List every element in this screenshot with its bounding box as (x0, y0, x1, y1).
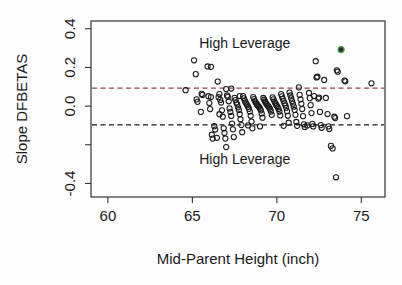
data-point (227, 106, 232, 111)
data-point (293, 112, 298, 117)
y-tick-label: 0.4 (62, 18, 79, 39)
data-point (208, 106, 213, 111)
y-tick-label: 0.2 (62, 57, 79, 78)
data-point (300, 106, 305, 111)
data-point (322, 77, 327, 82)
data-point (257, 124, 262, 129)
x-axis-tick-labels: 60657075 (100, 207, 370, 224)
x-axis-ticks (108, 197, 361, 203)
data-point (217, 92, 222, 97)
x-tick-label: 75 (353, 207, 370, 224)
x-axis-title: Mid-Parent Height (inch) (157, 250, 320, 267)
data-point (193, 72, 198, 77)
data-point (215, 79, 220, 84)
data-point (269, 112, 274, 117)
data-point (306, 90, 311, 95)
y-axis-title: Slope DFBETAS (13, 54, 30, 165)
data-point (323, 95, 328, 100)
data-point (208, 64, 213, 69)
data-point (224, 86, 229, 91)
data-point (223, 136, 228, 141)
data-point (308, 103, 313, 108)
data-point (369, 81, 374, 86)
high-leverage-label: High Leverage (199, 35, 290, 51)
data-point (300, 114, 305, 119)
data-point (313, 59, 318, 64)
data-point (238, 117, 243, 122)
scatter-plot-svg: 0.40.20.0-0.4 60657075 High LeverageHigh… (0, 0, 402, 285)
data-point (311, 93, 316, 98)
data-point (198, 109, 203, 114)
chart-figure: 0.40.20.0-0.4 60657075 High LeverageHigh… (0, 0, 402, 285)
data-point (237, 93, 242, 98)
data-point (325, 111, 330, 116)
data-point (292, 107, 297, 112)
highlighted-data-point (338, 47, 344, 53)
data-point (230, 127, 235, 132)
data-point (207, 100, 212, 105)
data-point (317, 109, 322, 114)
y-axis-tick-labels: 0.40.20.0-0.4 (62, 18, 79, 196)
data-point (344, 114, 349, 119)
data-point (281, 123, 286, 128)
data-point (309, 110, 314, 115)
data-point (224, 145, 229, 150)
data-point (240, 130, 245, 135)
x-tick-label: 60 (100, 207, 117, 224)
data-point (296, 85, 301, 90)
x-tick-label: 65 (184, 207, 201, 224)
x-tick-label: 70 (269, 207, 286, 224)
y-axis-ticks (85, 29, 91, 184)
data-point (231, 134, 236, 139)
data-point (213, 127, 218, 132)
data-point (333, 175, 338, 180)
data-point (191, 58, 196, 63)
high-leverage-label: High Leverage (199, 151, 290, 167)
y-tick-label: -0.4 (62, 171, 79, 197)
y-tick-label: 0.0 (62, 96, 79, 117)
